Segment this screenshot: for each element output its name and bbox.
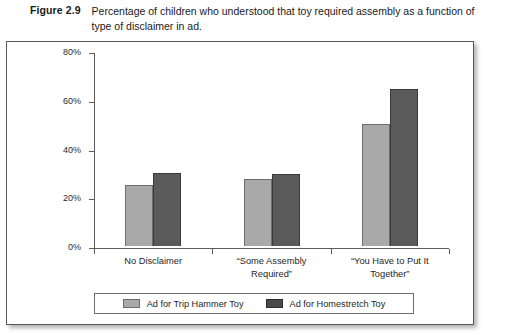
y-tick-mark (89, 199, 94, 200)
x-tick-mark (212, 249, 213, 254)
category-label: No Disclaimer (87, 255, 219, 268)
figure-number: Figure 2.9 (30, 4, 81, 16)
y-axis-line (94, 53, 95, 249)
y-tick-label: 0% (41, 242, 81, 252)
legend-item: Ad for Trip Hammer Toy (123, 299, 244, 309)
legend-swatch (266, 299, 283, 308)
figure-caption-text: Percentage of children who understood th… (92, 4, 482, 33)
bar (272, 174, 300, 246)
y-tick-label: 40% (41, 145, 81, 155)
legend-swatch (123, 299, 140, 308)
bar (153, 173, 181, 246)
y-tick-label: 60% (41, 96, 81, 106)
legend-label: Ad for Trip Hammer Toy (147, 299, 244, 309)
category-label-line: No Disclaimer (87, 255, 219, 268)
x-tick-mark (449, 249, 450, 254)
category-label-line: “You Have to Put It (324, 255, 456, 268)
category-label: “Some AssemblyRequired” (206, 255, 338, 280)
y-tick-label: 80% (41, 47, 81, 57)
category-label-line: Required” (206, 268, 338, 281)
bar (362, 124, 390, 246)
y-tick-mark (89, 151, 94, 152)
x-tick-mark (331, 249, 332, 254)
x-axis-line (94, 248, 449, 249)
category-label-line: “Some Assembly (206, 255, 338, 268)
x-tick-mark (94, 249, 95, 254)
category-label: “You Have to Put ItTogether” (324, 255, 456, 280)
legend-label: Ad for Homestretch Toy (290, 299, 386, 309)
bar (390, 89, 418, 246)
bar (244, 179, 272, 246)
y-tick-mark (89, 53, 94, 54)
chart-frame: 0%20%40%60%80% No Disclaimer“Some Assemb… (6, 41, 474, 325)
bar (125, 185, 153, 246)
figure-caption: Figure 2.9 Percentage of children who un… (0, 0, 505, 38)
category-label-line: Together” (324, 268, 456, 281)
y-tick-label: 20% (41, 193, 81, 203)
plot-area: 0%20%40%60%80% No Disclaimer“Some Assemb… (7, 42, 473, 324)
chart-legend: Ad for Trip Hammer ToyAd for Homestretch… (94, 293, 414, 314)
y-tick-mark (89, 102, 94, 103)
legend-item: Ad for Homestretch Toy (266, 299, 386, 309)
